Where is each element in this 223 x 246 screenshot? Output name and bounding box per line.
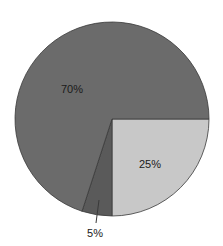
label-25: 25% [139, 158, 161, 170]
label-5: 5% [87, 227, 103, 239]
pie-chart: 70% 25% 5% [0, 0, 223, 246]
label-70: 70% [61, 83, 83, 95]
pie-slices [15, 22, 209, 216]
